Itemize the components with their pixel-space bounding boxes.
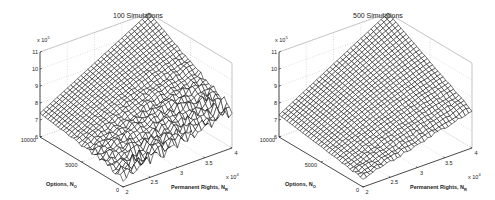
x-tick-label: 3 [180, 170, 183, 176]
x-tick [122, 186, 124, 187]
x-tick [149, 176, 151, 177]
x-tick-label: 3.5 [445, 160, 453, 166]
x-tick [416, 167, 418, 168]
x-tick [203, 157, 205, 158]
x-tick-label: 2.5 [150, 179, 158, 185]
z-tick-label: 11 [271, 49, 277, 55]
z-axis-multiplier: x 105 [37, 35, 50, 43]
y-tick-label: 10000 [260, 137, 275, 143]
x-axis-label: Permanent Rights, NR [410, 184, 467, 192]
chart-title: 500 Simulations [353, 12, 403, 19]
y-tick-label: 10000 [21, 137, 36, 143]
x-tick [176, 167, 178, 168]
x-tick-label: 2.5 [390, 179, 398, 185]
y-axis-label: Options, NO [285, 181, 316, 189]
x-tick-label: 2 [365, 189, 368, 195]
z-tick-label: 9 [274, 83, 277, 89]
chart-panel-100-simulations: 6789101122.533.540500010000 100 Simulati… [0, 0, 247, 200]
z-tick-label: 10 [271, 66, 277, 72]
y-tick-label: 5000 [305, 162, 317, 168]
surface-plot-100: 6789101122.533.540500010000 [0, 0, 247, 200]
chart-panel-500-simulations: 6789101122.533.540500010000 500 Simulati… [245, 0, 492, 200]
y-tick-label: 5000 [65, 162, 77, 168]
surface-plot-500: 6789101122.533.540500010000 [245, 0, 495, 200]
x-tick [443, 157, 445, 158]
x-tick-label: 4 [234, 150, 237, 156]
z-tick-label: 7 [274, 117, 277, 123]
z-tick-label: 8 [35, 100, 38, 106]
z-tick [279, 51, 281, 52]
z-tick-label: 11 [32, 49, 38, 55]
x-tick [389, 176, 391, 177]
x-axis-label: Permanent Rights, NR [171, 184, 228, 192]
z-tick [40, 51, 42, 52]
z-tick-label: 8 [274, 100, 277, 106]
y-tick [321, 161, 323, 162]
y-tick-label: 0 [116, 187, 119, 193]
z-tick-label: 9 [35, 83, 38, 89]
x-axis-multiplier: x 104 [226, 172, 239, 180]
x-tick-label: 4 [474, 150, 477, 156]
x-tick-label: 2 [125, 189, 128, 195]
chart-title: 100 Simulations [113, 12, 163, 19]
x-axis-multiplier: x 104 [468, 172, 481, 180]
x-tick-label: 3.5 [205, 160, 213, 166]
y-axis-label: Options, NO [46, 181, 77, 189]
y-tick [82, 161, 84, 162]
z-tick-label: 10 [32, 66, 38, 72]
y-tick-label: 0 [356, 187, 359, 193]
x-tick [362, 186, 364, 187]
x-tick-label: 3 [420, 170, 423, 176]
z-axis-multiplier: x 105 [275, 35, 288, 43]
z-tick-label: 7 [35, 117, 38, 123]
